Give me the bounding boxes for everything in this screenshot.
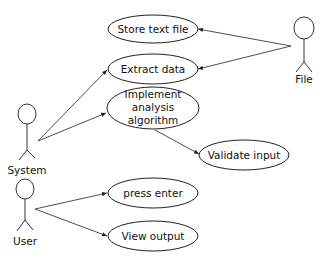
use-case-validate-input: Validate input bbox=[199, 140, 289, 170]
use-case-extract-data: Extract data bbox=[108, 54, 198, 84]
use-case-label: Store text file bbox=[117, 23, 188, 35]
use-case-view-output: View output bbox=[108, 221, 198, 251]
use-case-diagram: Store text file Extract data Implement a… bbox=[0, 0, 326, 264]
use-case-press-enter: press enter bbox=[108, 178, 198, 208]
assoc-user-press-enter bbox=[35, 193, 107, 209]
assoc-user-view-output bbox=[35, 209, 107, 236]
use-case-label: press enter bbox=[123, 187, 183, 199]
use-case-label-line-1: Implement bbox=[125, 88, 182, 100]
use-case-implement-analysis-algorithm: Implement analysis algorithm bbox=[107, 87, 199, 129]
assoc-file-extract-data bbox=[198, 46, 291, 69]
actor-file: File bbox=[294, 17, 314, 85]
actor-label: File bbox=[295, 73, 313, 85]
actor-head-icon bbox=[294, 17, 314, 39]
actor-label: System bbox=[7, 164, 46, 176]
use-case-label-line-2: analysis bbox=[132, 101, 175, 113]
assoc-implement-validate bbox=[155, 130, 199, 154]
assoc-system-extract-data bbox=[38, 70, 107, 141]
assoc-file-store-text bbox=[198, 29, 291, 46]
actor-label: User bbox=[13, 235, 38, 247]
use-case-label: Extract data bbox=[121, 63, 186, 75]
assoc-system-implement bbox=[38, 113, 106, 141]
actor-user: User bbox=[13, 179, 38, 247]
actor-head-icon bbox=[16, 179, 34, 199]
use-case-label-line-3: algorithm bbox=[128, 114, 179, 126]
use-case-label: Validate input bbox=[208, 149, 281, 161]
actor-head-icon bbox=[18, 104, 36, 124]
use-case-store-text-file: Store text file bbox=[108, 15, 198, 43]
use-case-label: View output bbox=[122, 230, 185, 242]
